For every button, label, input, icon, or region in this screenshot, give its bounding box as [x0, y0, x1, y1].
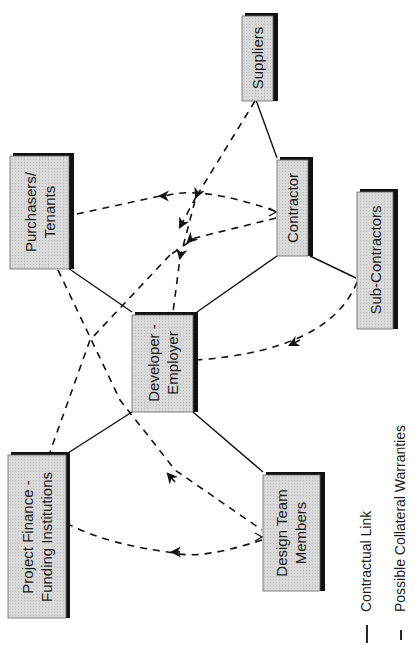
- arrowhead-suppliers: [180, 197, 196, 227]
- node-design-label-2: Members: [292, 502, 309, 565]
- warranty-purchasers-end: [72, 196, 160, 215]
- link-developer-finance: [68, 412, 132, 453]
- warranty-subcontractors-developer: [197, 282, 357, 360]
- node-contractor: Contractor: [277, 157, 313, 256]
- link-contractor-subcontractors: [310, 256, 356, 278]
- node-contractor-label: Contractor: [284, 173, 301, 243]
- link-contractor-developer: [197, 256, 277, 312]
- node-design: Design Team Members: [263, 472, 325, 591]
- legend-contractual-label: Contractual Link: [358, 510, 374, 612]
- node-purchasers-label-1: Purchasers/: [22, 171, 39, 252]
- node-finance: Project Finance - Funding Institutions: [8, 452, 70, 618]
- node-finance-label-1: Project Finance -: [19, 480, 36, 593]
- arrowhead-design-up: [168, 474, 175, 482]
- node-purchasers: Purchasers/ Tenants: [10, 153, 74, 269]
- link-developer-design: [193, 412, 263, 472]
- arrowhead-contractor-finance: [188, 240, 190, 242]
- warranty-design-finance: [70, 525, 262, 555]
- arrowhead-sub: [290, 340, 300, 345]
- warranty-contractor-finance: [170, 218, 276, 255]
- warranty-contractor-purchasers: [165, 193, 275, 211]
- link-suppliers-contractor: [256, 100, 277, 158]
- node-subcontractors: Sub-Contractors: [357, 189, 398, 329]
- contractual-links: [68, 100, 356, 472]
- node-developer: Developer - Employer: [132, 312, 198, 412]
- legend-collateral-label: Possible Collateral Warranties: [392, 425, 408, 612]
- chevron-contractor: [269, 208, 276, 216]
- node-developer-label-1: Developer -: [145, 324, 162, 402]
- node-suppliers: Suppliers: [242, 13, 278, 101]
- node-subcontractors-label: Sub-Contractors: [367, 205, 384, 314]
- node-design-label-1: Design Team: [273, 489, 290, 576]
- node-finance-label-2: Funding Institutions: [38, 472, 55, 602]
- legend: Contractual Link Possible Collateral War…: [358, 425, 408, 643]
- node-purchasers-label-2: Tenants: [41, 186, 58, 239]
- contract-diagram: Suppliers Purchasers/ Tenants Contractor…: [0, 0, 417, 645]
- node-suppliers-label: Suppliers: [249, 27, 266, 90]
- node-developer-label-2: Employer: [164, 331, 181, 394]
